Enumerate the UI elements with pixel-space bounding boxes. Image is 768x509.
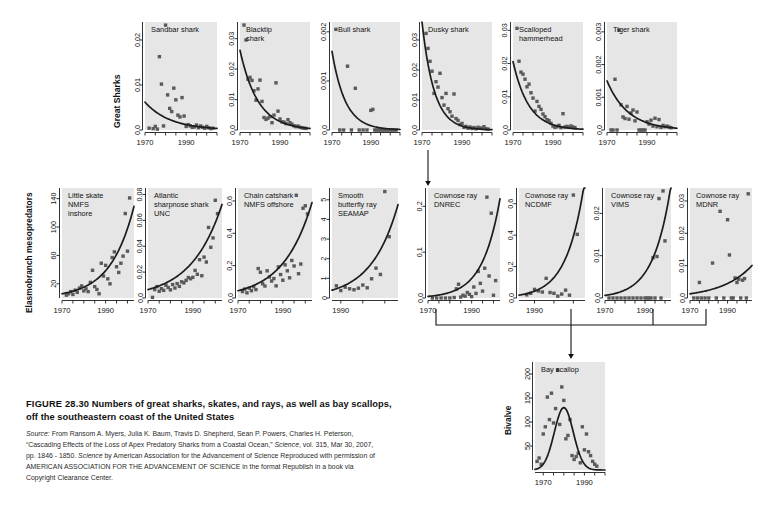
data-point	[452, 92, 455, 95]
data-point	[211, 236, 214, 239]
data-point	[460, 122, 463, 125]
data-point	[570, 454, 573, 457]
y-tick-label: 0.02	[678, 226, 687, 240]
figure-number: FIGURE 28.30	[26, 399, 89, 409]
data-point	[245, 291, 248, 294]
panel-title: Sandbar shark	[151, 25, 199, 34]
y-axis: 0.00.010.020.03	[501, 22, 511, 135]
data-point	[370, 277, 373, 280]
data-point	[562, 399, 565, 402]
data-point	[743, 277, 746, 280]
data-point	[205, 260, 208, 263]
data-point	[739, 296, 742, 299]
panel-title-line: Atlantic	[154, 191, 179, 200]
x-tick-label: 1970	[535, 478, 552, 487]
y-tick-label: 0.4	[226, 228, 235, 238]
data-point	[286, 269, 289, 272]
panel-title-line: Little skate	[68, 191, 103, 200]
data-point	[374, 266, 377, 269]
y-tick-label: 0.04	[136, 239, 145, 253]
data-point	[147, 127, 150, 130]
source-line3-post: by American Association for the Advancem…	[103, 452, 375, 459]
x-tick-label: 1990	[576, 478, 593, 487]
data-point	[295, 194, 298, 197]
data-point	[639, 296, 642, 299]
data-point	[452, 296, 455, 299]
y-tick-label: 20	[50, 280, 59, 288]
caption-title-line1: Numbers of great sharks, skates, and ray…	[92, 399, 392, 409]
y-tick-label: 0.001	[595, 88, 604, 106]
source-line3-pre: pp. 1846 - 1850.	[26, 452, 78, 459]
panel-title-line: DNREC	[434, 200, 461, 209]
x-axis: 19701990	[324, 133, 400, 148]
data-point	[735, 281, 738, 284]
x-axis: 19701990	[682, 301, 752, 316]
data-point	[492, 294, 495, 297]
x-tick-label: 1990	[639, 138, 656, 147]
y-axis: 0.00.0010.0020.003	[595, 22, 605, 135]
panel-title-line: hammerhead	[519, 34, 563, 43]
data-point	[572, 193, 575, 196]
source-line4: AMERICAN ASSOCIATION FOR THE ADVANCEMENT…	[26, 463, 354, 470]
y-tick-label: 0.2	[507, 261, 516, 271]
data-point	[383, 190, 386, 193]
data-point	[579, 461, 582, 464]
data-point	[635, 296, 638, 299]
data-point	[625, 105, 628, 108]
arrow-bracket-to-scallop-head	[568, 354, 574, 359]
data-point	[703, 296, 706, 299]
data-point	[552, 421, 555, 424]
y-axis: 0.00.10.2	[416, 188, 426, 303]
data-point	[170, 110, 173, 113]
x-axis: 19701990	[137, 133, 217, 148]
data-point	[611, 128, 614, 131]
data-point	[366, 286, 369, 289]
data-point	[160, 82, 163, 85]
data-point	[209, 246, 212, 249]
data-point	[537, 105, 540, 108]
data-point	[97, 292, 100, 295]
data-point	[715, 296, 718, 299]
panel-bay-scallop: 5010015020019701990Bay scallop	[523, 362, 606, 487]
data-point	[191, 276, 194, 279]
y-tick-label: 100	[523, 416, 532, 428]
data-point	[474, 292, 477, 295]
data-point	[517, 60, 520, 63]
x-tick-label: 1970	[420, 306, 437, 315]
panel-little-skate: 206010014019701990Little skateNMFSinshor…	[50, 188, 135, 315]
data-point	[100, 262, 103, 265]
x-axis: 19701990	[505, 133, 583, 148]
data-point	[583, 448, 586, 451]
panel-title-line: Smooth	[338, 191, 363, 200]
data-point	[535, 100, 538, 103]
data-point	[442, 103, 445, 106]
x-axis: 19701990	[230, 301, 312, 316]
y-tick-label: 140	[50, 193, 59, 205]
x-tick-label: 1970	[230, 306, 247, 315]
panel-smooth-butterfly-ray: 0123451990Smoothbutterfly raySEAMAP	[320, 188, 399, 315]
data-point	[263, 284, 266, 287]
data-point	[696, 296, 699, 299]
data-point	[546, 395, 549, 398]
x-axis: 19701990	[597, 301, 671, 316]
panel-dusky-shark: 0.00.010.020.0319701990Dusky shark	[410, 22, 493, 147]
data-point	[265, 269, 268, 272]
data-point	[747, 192, 750, 195]
data-point	[361, 283, 364, 286]
data-point	[649, 296, 652, 299]
data-point	[248, 76, 251, 79]
arrow-dusky-to-cownose-head	[425, 181, 431, 186]
y-tick-label: 0.0	[226, 293, 235, 303]
x-axis: 19701990	[232, 133, 310, 148]
data-point	[613, 78, 616, 81]
data-point	[564, 288, 567, 291]
x-tick-label: 1990	[178, 138, 195, 147]
panel-cownose-ray-mdnr: 0.00.010.020.0319701990Cownose rayMDNR	[678, 188, 753, 315]
data-point	[615, 296, 618, 299]
panel-title-line: Scalloped	[519, 25, 551, 34]
y-tick-label: 50	[523, 442, 532, 450]
data-point	[436, 85, 439, 88]
x-tick-label: 1970	[597, 306, 614, 315]
data-point	[254, 288, 257, 291]
data-point	[162, 289, 165, 292]
